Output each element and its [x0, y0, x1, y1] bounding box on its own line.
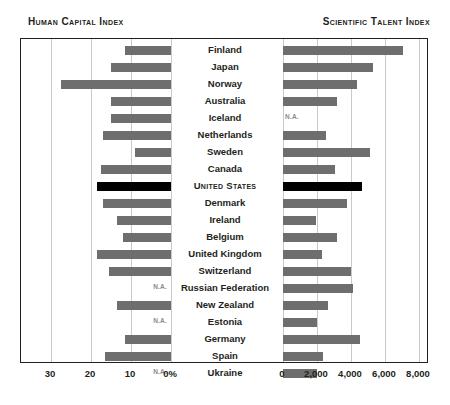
- country-label: Belgium: [166, 231, 284, 243]
- bar-right-scientific-talent: [283, 267, 351, 276]
- bar-right-scientific-talent: [283, 352, 323, 361]
- country-label: Spain: [166, 350, 284, 362]
- bar-left-human-capital: [103, 131, 171, 140]
- country-label: Australia: [166, 95, 284, 107]
- country-label: Switzerland: [166, 265, 284, 277]
- bar-right-scientific-talent: [283, 199, 347, 208]
- bar-right-scientific-talent: [283, 63, 373, 72]
- chart-row: Ireland: [21, 212, 427, 229]
- bar-left-human-capital: [101, 165, 171, 174]
- chart-row: Belgium: [21, 229, 427, 246]
- bar-right-scientific-talent: [283, 46, 403, 55]
- na-label-left: N.A.: [137, 283, 167, 290]
- country-label: Denmark: [166, 197, 284, 209]
- chart-row: Germany: [21, 331, 427, 348]
- chart-row: Denmark: [21, 195, 427, 212]
- chart-row: N.A.Iceland: [21, 110, 427, 127]
- left-panel-title: Human Capital Index: [28, 16, 124, 27]
- country-label: Japan: [166, 61, 284, 73]
- tick-label-right-4000: 4,000: [338, 368, 362, 379]
- country-label: Russian Federation: [166, 282, 284, 294]
- tick-label-left-30: 30: [45, 368, 56, 379]
- country-label: Netherlands: [166, 129, 284, 141]
- bar-left-human-capital: [111, 97, 171, 106]
- country-label: Germany: [166, 333, 284, 345]
- chart-row: Finland: [21, 42, 427, 59]
- tick-label-left-20: 20: [85, 368, 96, 379]
- na-label-right: N.A.: [285, 113, 315, 120]
- chart-row: N.A.Estonia: [21, 314, 427, 331]
- bar-right-scientific-talent: [283, 318, 317, 327]
- tick-label-right-6000: 6,000: [372, 368, 396, 379]
- bar-left-human-capital: [111, 114, 171, 123]
- country-label: United Kingdom: [166, 248, 284, 260]
- bar-right-scientific-talent: [283, 284, 353, 293]
- chart-row: United States: [21, 178, 427, 195]
- chart-row: N.A.Russian Federation: [21, 280, 427, 297]
- bar-right-scientific-talent: [283, 335, 360, 344]
- country-label: Sweden: [166, 146, 284, 158]
- chart-row: New Zealand: [21, 297, 427, 314]
- right-panel-title: Scientific Talent Index: [323, 16, 430, 27]
- bar-left-human-capital: [117, 301, 171, 310]
- chart-row: Norway: [21, 76, 427, 93]
- tick-label-left-0: 0%: [163, 368, 177, 379]
- bar-right-scientific-talent: [283, 80, 357, 89]
- chart-row: United Kingdom: [21, 246, 427, 263]
- bar-right-scientific-talent: [283, 250, 322, 259]
- tick-label-left-10: 10: [125, 368, 136, 379]
- chart-row: Netherlands: [21, 127, 427, 144]
- bar-left-human-capital: [125, 335, 171, 344]
- tick-label-right-8000: 8,000: [406, 368, 430, 379]
- country-label: New Zealand: [166, 299, 284, 311]
- plot-area: FinlandJapanNorwayAustraliaN.A.IcelandNe…: [20, 38, 428, 363]
- bar-right-scientific-talent: [283, 165, 335, 174]
- bar-right-scientific-talent: [283, 97, 337, 106]
- country-label: Ukraine: [166, 367, 284, 379]
- tick-label-right-2000: 2,000: [304, 368, 328, 379]
- country-label: Canada: [166, 163, 284, 175]
- country-label: Estonia: [166, 316, 284, 328]
- chart-row: N.A.Ukraine: [21, 365, 427, 382]
- country-label: Norway: [166, 78, 284, 90]
- bar-left-human-capital: [123, 233, 171, 242]
- country-label: Finland: [166, 44, 284, 56]
- tick-label-right-0: 0: [279, 368, 284, 379]
- country-label: Iceland: [166, 112, 284, 124]
- butterfly-chart: Human Capital Index Scientific Talent In…: [0, 0, 450, 405]
- chart-row: Spain: [21, 348, 427, 365]
- bar-right-scientific-talent: [283, 148, 370, 157]
- bar-left-human-capital: [61, 80, 171, 89]
- chart-row: Japan: [21, 59, 427, 76]
- bar-right-scientific-talent: [283, 301, 328, 310]
- chart-row: Sweden: [21, 144, 427, 161]
- bar-right-scientific-talent: [283, 233, 337, 242]
- country-label: Ireland: [166, 214, 284, 226]
- bar-left-human-capital: [125, 46, 171, 55]
- chart-row: Canada: [21, 161, 427, 178]
- bar-right-scientific-talent: [283, 216, 316, 225]
- bar-left-human-capital: [111, 63, 171, 72]
- bar-right-scientific-talent: [283, 131, 326, 140]
- bar-left-human-capital: [97, 250, 171, 259]
- chart-row: Australia: [21, 93, 427, 110]
- bar-left-human-capital: [97, 182, 171, 191]
- bar-left-human-capital: [103, 199, 171, 208]
- bar-left-human-capital: [117, 216, 171, 225]
- bar-left-human-capital: [105, 352, 171, 361]
- bar-left-human-capital: [109, 267, 171, 276]
- na-label-left: N.A.: [137, 317, 167, 324]
- chart-rows: FinlandJapanNorwayAustraliaN.A.IcelandNe…: [21, 39, 427, 362]
- bar-right-scientific-talent: [283, 182, 362, 191]
- chart-row: Switzerland: [21, 263, 427, 280]
- country-label: United States: [166, 180, 284, 192]
